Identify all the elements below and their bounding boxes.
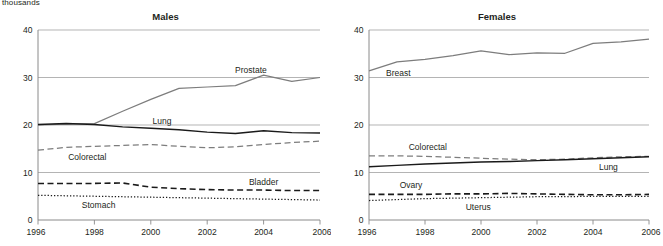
svg-text:0: 0 (28, 215, 33, 225)
svg-text:Lung: Lung (599, 162, 618, 172)
svg-text:2000: 2000 (141, 227, 160, 237)
svg-text:Uterus: Uterus (466, 202, 491, 212)
svg-text:Ovary: Ovary (400, 180, 423, 190)
svg-text:40: 40 (23, 25, 33, 35)
svg-text:Colorectal: Colorectal (68, 152, 106, 162)
figure-root: thousands Males 010203040199619982000200… (0, 0, 663, 246)
svg-text:Colorectal: Colorectal (409, 142, 447, 152)
svg-text:Bladder: Bladder (249, 177, 278, 187)
svg-text:2006: 2006 (313, 227, 331, 237)
svg-text:30: 30 (23, 73, 33, 83)
svg-text:2000: 2000 (472, 227, 491, 237)
svg-text:1996: 1996 (27, 227, 46, 237)
svg-text:0: 0 (359, 215, 364, 225)
svg-text:10: 10 (23, 168, 33, 178)
svg-text:10: 10 (354, 168, 364, 178)
svg-text:1998: 1998 (416, 227, 435, 237)
svg-text:2002: 2002 (528, 227, 547, 237)
svg-text:Breast: Breast (386, 68, 411, 78)
chart-males: 010203040199619982000200220042006Prostat… (0, 0, 331, 246)
svg-text:20: 20 (23, 120, 33, 130)
chart-females: 010203040199619982000200220042006BreastC… (331, 0, 663, 246)
svg-text:2004: 2004 (254, 227, 273, 237)
svg-text:20: 20 (354, 120, 364, 130)
svg-text:Lung: Lung (153, 116, 172, 126)
svg-text:2006: 2006 (642, 227, 661, 237)
svg-text:2002: 2002 (198, 227, 217, 237)
svg-text:Prostate: Prostate (235, 65, 267, 75)
svg-text:Stomach: Stomach (82, 200, 116, 210)
svg-text:1996: 1996 (358, 227, 377, 237)
svg-text:30: 30 (354, 73, 364, 83)
svg-text:2004: 2004 (584, 227, 603, 237)
panel-males: Males 010203040199619982000200220042006P… (0, 0, 331, 246)
svg-text:40: 40 (354, 25, 364, 35)
panel-females: Females 01020304019961998200020022004200… (331, 0, 663, 246)
svg-text:1998: 1998 (85, 227, 104, 237)
